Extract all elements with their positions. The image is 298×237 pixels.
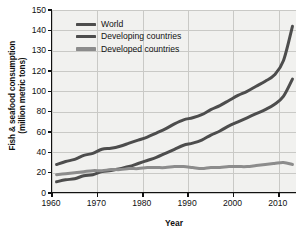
x-axis-title: Year [51,218,297,228]
x-axis-tick-label: 1990 [169,199,205,208]
x-axis-tick-label: 2000 [214,199,250,208]
x-axis-tick-labels: 196019701980199020002010 [0,0,298,237]
x-axis-tick-label: 1980 [124,199,160,208]
x-axis-tick-label: 2010 [260,199,296,208]
x-axis-tick-label: 1960 [33,199,69,208]
x-axis-tick-label: 1970 [78,199,114,208]
chart-figure: Fish & seafood consumption (million metr… [0,0,298,237]
